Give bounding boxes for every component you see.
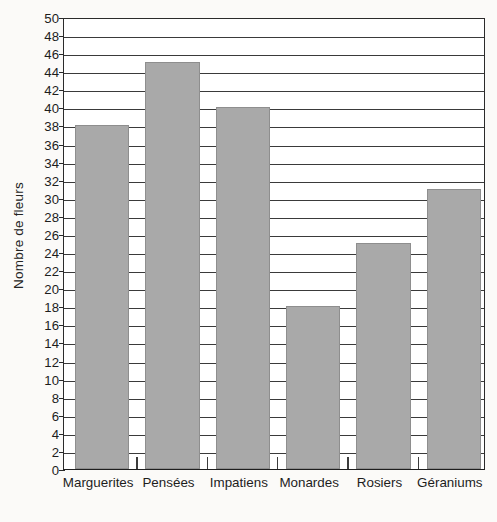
y-axis-tick-label: 24 <box>30 247 59 260</box>
bar <box>427 189 482 469</box>
y-axis-tick-label: 6 <box>30 409 59 422</box>
plot-area <box>63 18 485 470</box>
x-axis-tick-label: Géraniums <box>397 474 497 492</box>
x-axis-tick-mark <box>347 457 348 469</box>
y-axis-tick-label: 44 <box>30 66 59 79</box>
y-axis-tick-label: 14 <box>30 337 59 350</box>
y-axis-tick-label: 46 <box>30 48 59 61</box>
bars-layer <box>64 19 484 469</box>
y-axis-tick-label: 26 <box>30 228 59 241</box>
y-axis-tick-label: 8 <box>30 391 59 404</box>
y-axis-tick-label: 38 <box>30 120 59 133</box>
y-axis-tick-label: 18 <box>30 301 59 314</box>
y-axis-tick-label: 12 <box>30 355 59 368</box>
y-axis-tick-label: 22 <box>30 265 59 278</box>
y-axis-tick-label: 50 <box>30 12 59 25</box>
y-axis-tick-label: 32 <box>30 174 59 187</box>
x-axis-tick-mark <box>418 457 419 469</box>
bar <box>286 306 341 469</box>
y-axis-tick-label: 28 <box>30 210 59 223</box>
bar-chart-figure: Nombre de fleurs 02468101214161820222426… <box>0 0 497 522</box>
y-axis-title-text: Nombre de fleurs <box>11 182 26 289</box>
bar <box>216 107 271 469</box>
y-axis-tick-label: 20 <box>30 283 59 296</box>
x-axis-tick-mark <box>277 457 278 469</box>
y-axis-tick-label: 42 <box>30 84 59 97</box>
y-axis-tick-label: 48 <box>30 30 59 43</box>
x-axis-tick-mark <box>207 457 208 469</box>
bar <box>145 62 200 469</box>
bar <box>356 243 411 469</box>
y-axis-tick-label: 4 <box>30 427 59 440</box>
y-axis-tick-label: 16 <box>30 319 59 332</box>
y-axis-tick-label: 30 <box>30 192 59 205</box>
y-axis-tick-labels: 0246810121416182022242628303234363840424… <box>30 0 59 522</box>
y-axis-tick-mark <box>59 470 65 471</box>
y-axis-tick-label: 10 <box>30 373 59 386</box>
x-axis-tick-mark <box>136 457 137 469</box>
bar <box>75 125 130 469</box>
y-axis-tick-label: 34 <box>30 156 59 169</box>
x-axis-tick-labels: MargueritesPenséesImpatiensMonardesRosie… <box>63 474 485 500</box>
y-axis-tick-label: 40 <box>30 102 59 115</box>
y-axis-tick-label: 2 <box>30 445 59 458</box>
y-axis-tick-label: 36 <box>30 138 59 151</box>
